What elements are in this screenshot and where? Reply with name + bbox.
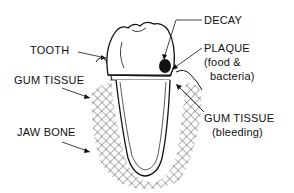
label-gum-tissue-bleeding-detail: (bleeding) xyxy=(212,126,263,138)
plaque-pointer xyxy=(174,48,202,68)
label-plaque-detail-1: (food & xyxy=(204,56,241,68)
label-tooth: TOOTH xyxy=(30,44,69,56)
plaque-blob xyxy=(159,59,171,73)
label-plaque-detail-2: bacteria) xyxy=(210,70,255,82)
label-jaw-bone: JAW BONE xyxy=(17,126,76,138)
label-gum-tissue-bleeding: GUM TISSUE xyxy=(204,112,274,124)
label-plaque: PLAQUE xyxy=(204,42,250,54)
label-gum-tissue: GUM TISSUE xyxy=(14,74,84,86)
label-decay: DECAY xyxy=(204,14,242,26)
tooth-diagram xyxy=(0,0,294,193)
